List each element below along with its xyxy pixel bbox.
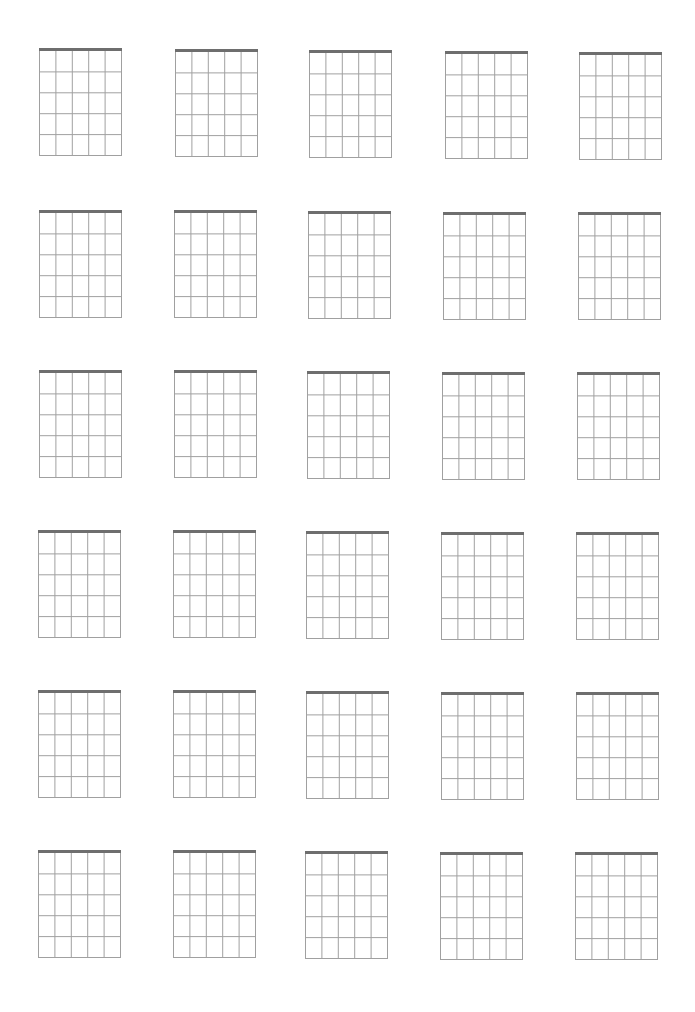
nut-bar <box>174 210 257 213</box>
nut-bar <box>576 692 659 695</box>
chord-diagram-r2-c4 <box>443 212 526 320</box>
fretboard-grid <box>442 372 525 480</box>
chord-diagram-r4-c1 <box>38 530 121 638</box>
nut-bar <box>307 371 390 374</box>
chord-diagram-r2-c3 <box>308 211 391 319</box>
chord-diagram-r6-c5 <box>575 852 658 960</box>
chord-diagram-r1-c1 <box>39 48 122 156</box>
nut-bar <box>175 49 258 52</box>
nut-bar <box>173 850 256 853</box>
fretboard-grid <box>306 531 389 639</box>
nut-bar <box>575 852 658 855</box>
fretboard-grid <box>305 851 388 959</box>
chord-diagram-r1-c4 <box>445 51 528 159</box>
chord-diagram-r4-c5 <box>576 532 659 640</box>
chord-diagram-r5-c3 <box>306 691 389 799</box>
chord-diagram-r2-c1 <box>39 210 122 318</box>
chord-diagram-r3-c4 <box>442 372 525 480</box>
nut-bar <box>443 212 526 215</box>
fretboard-grid <box>441 692 524 800</box>
nut-bar <box>305 851 388 854</box>
fretboard-grid <box>575 852 658 960</box>
fretboard-grid <box>576 692 659 800</box>
chord-diagram-r3-c1 <box>39 370 122 478</box>
chord-diagram-r3-c5 <box>577 372 660 480</box>
fretboard-grid <box>308 211 391 319</box>
fretboard-grid <box>39 370 122 478</box>
nut-bar <box>173 530 256 533</box>
chord-diagram-r6-c4 <box>440 852 523 960</box>
nut-bar <box>579 52 662 55</box>
chord-diagram-r1-c2 <box>175 49 258 157</box>
fretboard-grid <box>445 51 528 159</box>
fretboard-grid <box>579 52 662 160</box>
nut-bar <box>309 50 392 53</box>
nut-bar <box>308 211 391 214</box>
chord-diagram-r4-c4 <box>441 532 524 640</box>
chord-diagram-r1-c5 <box>579 52 662 160</box>
nut-bar <box>442 372 525 375</box>
chord-diagram-r3-c3 <box>307 371 390 479</box>
fretboard-grid <box>309 50 392 158</box>
nut-bar <box>576 532 659 535</box>
nut-bar <box>38 850 121 853</box>
nut-bar <box>440 852 523 855</box>
fretboard-grid <box>39 210 122 318</box>
chord-diagram-r6-c3 <box>305 851 388 959</box>
fretboard-grid <box>306 691 389 799</box>
fretboard-grid <box>307 371 390 479</box>
fretboard-grid <box>175 49 258 157</box>
chord-diagram-r2-c2 <box>174 210 257 318</box>
nut-bar <box>578 212 661 215</box>
nut-bar <box>38 690 121 693</box>
fretboard-grid <box>174 370 257 478</box>
chord-diagram-r4-c3 <box>306 531 389 639</box>
fretboard-grid <box>173 690 256 798</box>
chord-diagram-r4-c2 <box>173 530 256 638</box>
chord-diagram-r6-c1 <box>38 850 121 958</box>
nut-bar <box>306 531 389 534</box>
fretboard-grid <box>38 850 121 958</box>
chord-diagram-r5-c5 <box>576 692 659 800</box>
fretboard-grid <box>173 530 256 638</box>
fretboard-grid <box>441 532 524 640</box>
nut-bar <box>306 691 389 694</box>
fretboard-grid <box>173 850 256 958</box>
nut-bar <box>174 370 257 373</box>
chord-diagram-r2-c5 <box>578 212 661 320</box>
nut-bar <box>39 210 122 213</box>
chord-diagram-r1-c3 <box>309 50 392 158</box>
fretboard-grid <box>38 690 121 798</box>
fretboard-grid <box>577 372 660 480</box>
nut-bar <box>39 48 122 51</box>
fretboard-grid <box>174 210 257 318</box>
nut-bar <box>38 530 121 533</box>
fretboard-grid <box>443 212 526 320</box>
chord-diagram-sheet <box>0 0 695 1012</box>
fretboard-grid <box>38 530 121 638</box>
nut-bar <box>173 690 256 693</box>
chord-diagram-r5-c4 <box>441 692 524 800</box>
nut-bar <box>445 51 528 54</box>
chord-diagram-r5-c1 <box>38 690 121 798</box>
nut-bar <box>441 532 524 535</box>
fretboard-grid <box>440 852 523 960</box>
fretboard-grid <box>576 532 659 640</box>
nut-bar <box>441 692 524 695</box>
chord-diagram-r5-c2 <box>173 690 256 798</box>
chord-diagram-r3-c2 <box>174 370 257 478</box>
fretboard-grid <box>578 212 661 320</box>
fretboard-grid <box>39 48 122 156</box>
chord-diagram-r6-c2 <box>173 850 256 958</box>
nut-bar <box>39 370 122 373</box>
nut-bar <box>577 372 660 375</box>
